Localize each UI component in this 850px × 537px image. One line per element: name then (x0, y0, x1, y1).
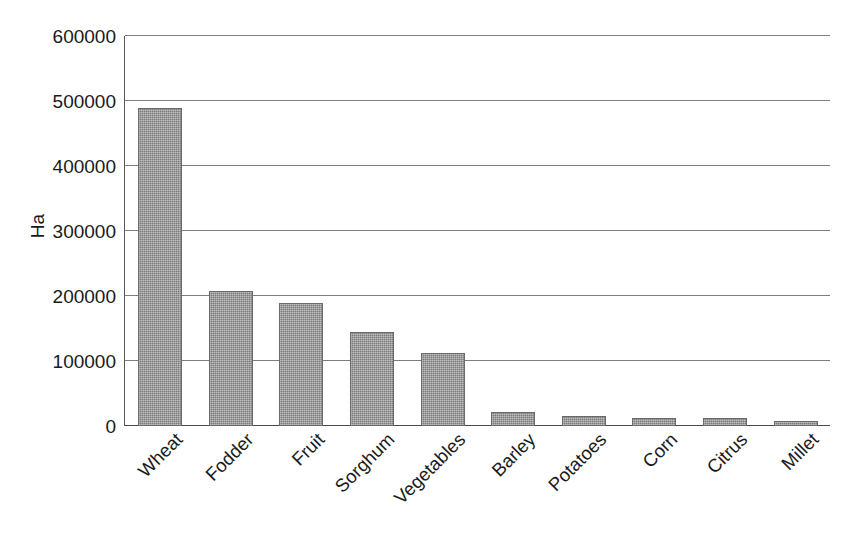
x-tick-label-millet: Millet (778, 430, 822, 474)
bar-wheat (138, 108, 182, 427)
y-tick-label: 200000 (53, 287, 116, 306)
bar-fodder (209, 291, 253, 426)
bars-group (125, 36, 830, 426)
y-tick-label: 500000 (53, 92, 116, 111)
bar-barley (491, 412, 535, 426)
bar-slot (549, 36, 620, 426)
bar-slot (690, 36, 761, 426)
x-tick-label-fruit: Fruit (288, 430, 327, 469)
bar-slot (196, 36, 267, 426)
bar-citrus (703, 418, 747, 426)
bar-fruit (279, 303, 323, 427)
bar-potatoes (562, 416, 606, 426)
bar-slot (125, 36, 196, 426)
bar-sorghum (350, 332, 394, 426)
x-axis-category-labels: WheatFodderFruitSorghumVegetablesBarleyP… (124, 430, 830, 535)
bar-corn (632, 418, 676, 426)
y-tick-label: 0 (105, 417, 116, 436)
bar-millet (774, 421, 818, 426)
bar-slot (337, 36, 408, 426)
x-tick-label-barley: Barley (489, 430, 539, 480)
bar-slot (407, 36, 478, 426)
y-tick-label: 400000 (53, 157, 116, 176)
x-tick-label-fodder: Fodder (202, 430, 257, 485)
bar-slot (760, 36, 831, 426)
plot-area: 0100000200000300000400000500000600000 (124, 36, 830, 426)
bar-chart: Ha 0100000200000300000400000500000600000… (0, 0, 850, 537)
x-tick-label-wheat: Wheat (135, 430, 186, 481)
y-tick-label: 600000 (53, 27, 116, 46)
bar-slot (619, 36, 690, 426)
bar-slot (478, 36, 549, 426)
x-tick-label-citrus: Citrus (704, 430, 751, 477)
y-tick-label: 100000 (53, 352, 116, 371)
x-tick-label-corn: Corn (639, 430, 680, 471)
x-tick-label-sorghum: Sorghum (332, 430, 398, 496)
y-tick-label: 300000 (53, 222, 116, 241)
bar-vegetables (421, 353, 465, 426)
bar-slot (266, 36, 337, 426)
x-tick-label-vegetables: Vegetables (391, 430, 469, 508)
x-tick-label-potatoes: Potatoes (545, 430, 610, 495)
